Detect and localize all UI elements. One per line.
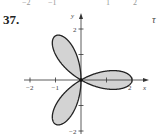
x-tick-label: −2 (26, 84, 34, 92)
y-tick-label: −2 (69, 128, 77, 136)
x-tick-label: 2 (128, 84, 132, 92)
x-axis-label: x (142, 84, 147, 92)
x-tick-label: −1 (52, 84, 60, 92)
y-axis-arrow-icon (79, 13, 83, 19)
y-tick-label: 2 (73, 26, 77, 34)
origin-point (79, 78, 83, 82)
polar-plot: −2−12 −22 x y (0, 0, 159, 135)
y-axis-label: y (70, 12, 75, 20)
x-axis-arrow-icon (143, 78, 149, 82)
